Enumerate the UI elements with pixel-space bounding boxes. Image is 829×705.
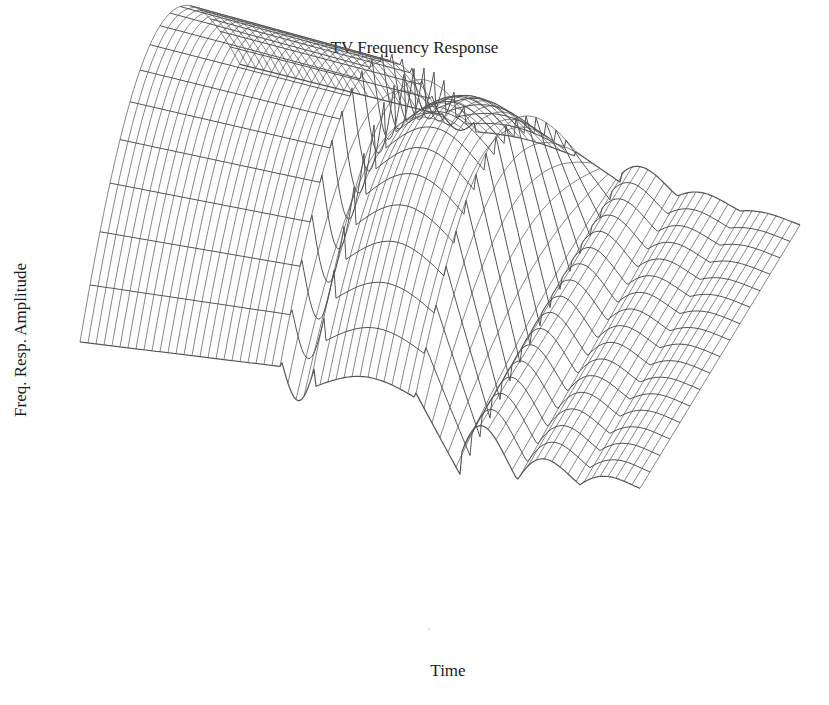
surface-plot	[0, 0, 829, 705]
wireframe-mesh	[80, 5, 800, 488]
